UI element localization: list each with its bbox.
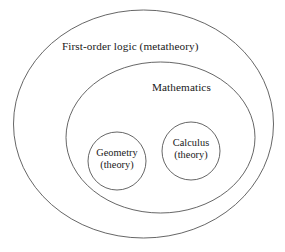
geometry-label-qualifier: (theory) bbox=[88, 159, 146, 171]
outer-region-label: First-order logic (metatheory) bbox=[62, 40, 199, 53]
calculus-region-label: Calculus (theory) bbox=[162, 137, 220, 161]
geometry-region-label: Geometry (theory) bbox=[88, 147, 146, 171]
diagram-canvas bbox=[0, 0, 285, 252]
set-diagram: First-order logic (metatheory) Mathemati… bbox=[0, 0, 285, 252]
geometry-label-name: Geometry bbox=[96, 147, 138, 158]
calculus-label-qualifier: (theory) bbox=[162, 149, 220, 161]
calculus-label-name: Calculus bbox=[173, 137, 209, 148]
middle-region-label: Mathematics bbox=[152, 81, 211, 94]
